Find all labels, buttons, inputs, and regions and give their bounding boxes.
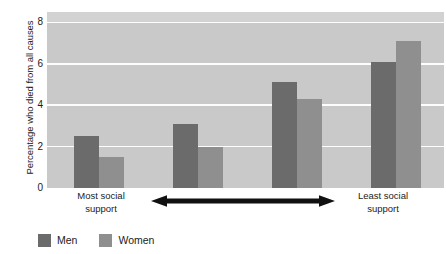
y-axis-tick-label: 6 (29, 59, 43, 69)
x-axis-label-right: Least social support (335, 190, 431, 215)
plot-area (47, 12, 444, 188)
x-axis-label-right-line2: support (335, 203, 431, 216)
legend-swatch-icon (38, 234, 51, 247)
bar-women-group-2 (198, 147, 223, 188)
y-axis-tick-label: 4 (29, 100, 43, 110)
bar-men-group-2 (173, 124, 198, 188)
bar-chart-figure: Percentage who died from all causes 8642… (0, 0, 446, 254)
bar-men-group-1 (74, 136, 99, 188)
bar-men-group-4 (371, 62, 396, 188)
x-axis-label-left: Most social support (53, 190, 149, 215)
legend-label: Men (57, 235, 77, 246)
legend-label: Women (118, 235, 154, 246)
bar-women-group-3 (297, 99, 322, 188)
y-axis-tick-label: 8 (29, 17, 43, 27)
y-axis-tick-label: 0 (29, 183, 43, 193)
legend-swatch-icon (99, 234, 112, 247)
x-axis-label-left-line1: Most social (53, 190, 149, 203)
legend-item-women[interactable]: Women (99, 234, 154, 247)
bar-women-group-1 (99, 157, 124, 188)
legend-item-men[interactable]: Men (38, 234, 77, 247)
x-axis-annotation-row: Most social support Least social support (47, 190, 444, 230)
legend: MenWomen (38, 234, 154, 247)
y-axis-tick-label: 2 (29, 142, 43, 152)
bar-women-group-4 (396, 41, 421, 188)
x-axis-label-right-line1: Least social (335, 190, 431, 203)
y-axis-tick-labels: 86420 (24, 0, 43, 254)
bar-men-group-3 (272, 82, 297, 188)
bars-layer (47, 12, 444, 188)
x-axis-label-left-line2: support (53, 203, 149, 216)
double-arrow-icon (151, 194, 335, 208)
